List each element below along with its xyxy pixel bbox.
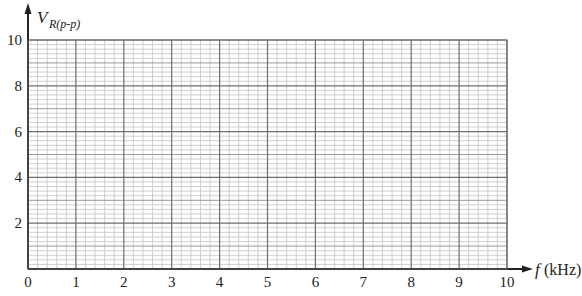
y-tick-label: 4 (15, 169, 23, 185)
y-tick-label: 6 (15, 124, 23, 140)
x-tick-label: 2 (120, 274, 128, 290)
y-tick-label: 2 (15, 215, 23, 231)
y-tick-labels: 246810 (7, 32, 23, 231)
x-axis-label-var: f (535, 260, 542, 279)
x-axis-label-unit: (kHz) (544, 261, 581, 279)
x-axis-arrow-icon (522, 266, 533, 273)
x-tick-label: 3 (168, 274, 176, 290)
y-axis-arrow-icon (25, 3, 32, 14)
y-tick-label: 8 (15, 78, 23, 94)
y-axis-label: V R(p-p) (37, 8, 80, 31)
x-tick-labels: 012345678910 (24, 274, 514, 290)
x-tick-label: 4 (216, 274, 224, 290)
x-tick-label: 9 (455, 274, 463, 290)
graph-paper-chart: 012345678910 246810 V R(p-p) f (kHz) (0, 0, 582, 296)
x-tick-label: 7 (360, 274, 368, 290)
x-tick-label: 10 (500, 274, 515, 290)
x-axis-label: f (kHz) (535, 260, 581, 279)
x-tick-label: 5 (264, 274, 272, 290)
y-axis-label-sub: R(p-p) (48, 17, 80, 31)
x-tick-label: 8 (407, 274, 415, 290)
y-tick-label: 10 (7, 32, 22, 48)
x-tick-label: 6 (312, 274, 320, 290)
x-tick-label: 0 (24, 274, 32, 290)
x-tick-label: 1 (72, 274, 80, 290)
